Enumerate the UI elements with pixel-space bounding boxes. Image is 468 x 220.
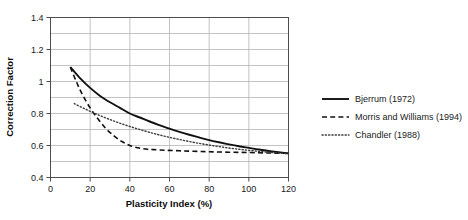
y-tick-label: 0.4 [31,173,44,183]
x-tick-label: 60 [164,184,174,194]
legend-label: Morris and Williams (1994) [355,112,462,122]
x-tick-label: 100 [241,184,256,194]
x-tick-label: 0 [48,184,53,194]
chart-figure: 020406080100120 0.40.60.811.21.4 Plastic… [0,0,468,220]
y-tick-label: 0.8 [31,109,44,119]
x-axis-title: Plasticity Index (%) [126,198,213,209]
y-axis-title: Correction Factor [4,57,15,137]
correction-factor-line-chart: 020406080100120 0.40.60.811.21.4 Plastic… [0,0,468,220]
y-tick-label: 1.2 [31,45,44,55]
x-tick-label: 120 [281,184,296,194]
chart-background [0,0,468,220]
x-tick-label: 20 [85,184,95,194]
y-tick-label: 1.4 [31,13,44,23]
legend-label: Bjerrum (1972) [355,94,415,104]
x-tick-label: 40 [125,184,135,194]
x-tick-label: 80 [204,184,214,194]
y-tick-label: 1 [38,77,43,87]
legend-label: Chandler (1988) [355,130,420,140]
y-tick-label: 0.6 [31,141,44,151]
